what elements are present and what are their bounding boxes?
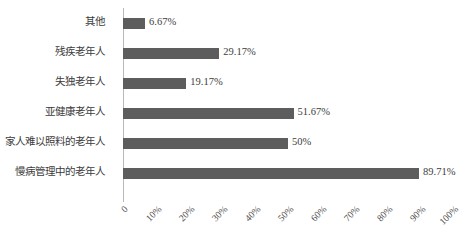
x-tick-label: 50% [276, 204, 296, 224]
x-tick-label: 70% [342, 204, 362, 224]
value-label-3: 51.67% [298, 105, 330, 118]
horizontal-bar-chart: 其他 6.67% 残疾老年人 29.17% 失独老年人 19.17% 亚健康老年… [0, 0, 464, 250]
bar-4 [123, 138, 288, 149]
category-label-1: 残疾老年人 [0, 45, 105, 58]
value-label-1: 29.17% [223, 45, 255, 58]
category-label-2: 失独老年人 [0, 75, 105, 88]
value-label-5: 89.71% [423, 165, 455, 178]
category-label-3: 亚健康老年人 [0, 105, 105, 118]
plot-area: 其他 6.67% 残疾老年人 29.17% 失独老年人 19.17% 亚健康老年… [123, 8, 453, 194]
value-label-0: 6.67% [149, 15, 176, 28]
bar-3 [123, 108, 294, 119]
x-tick-label: 0 [120, 204, 131, 215]
bar-row: 亚健康老年人 51.67% [123, 100, 453, 130]
bar-row: 失独老年人 19.17% [123, 70, 453, 100]
value-label-2: 19.17% [190, 75, 222, 88]
bar-0 [123, 18, 145, 29]
x-tick-label: 90% [408, 204, 428, 224]
category-label-4: 家人难以照料的老年人 [0, 135, 105, 148]
bar-5 [123, 168, 419, 179]
x-tick-label: 20% [177, 204, 197, 224]
bar-row: 其他 6.67% [123, 10, 453, 40]
x-axis-tick-labels: 010%20%30%40%50%60%70%80%90%100% [123, 202, 453, 248]
value-label-4: 50% [292, 135, 311, 148]
category-label-0: 其他 [0, 15, 105, 28]
x-tick-label: 80% [375, 204, 395, 224]
category-label-5: 慢病管理中的老年人 [0, 165, 105, 178]
bar-row: 慢病管理中的老年人 89.71% [123, 160, 453, 190]
bar-1 [123, 48, 219, 59]
x-tick-label: 60% [309, 204, 329, 224]
x-tick-label: 10% [144, 204, 164, 224]
bar-2 [123, 78, 186, 89]
x-tick-label: 40% [243, 204, 263, 224]
bar-row: 家人难以照料的老年人 50% [123, 130, 453, 160]
x-tick-label: 100% [437, 204, 460, 227]
x-tick-label: 30% [210, 204, 230, 224]
bar-row: 残疾老年人 29.17% [123, 40, 453, 70]
